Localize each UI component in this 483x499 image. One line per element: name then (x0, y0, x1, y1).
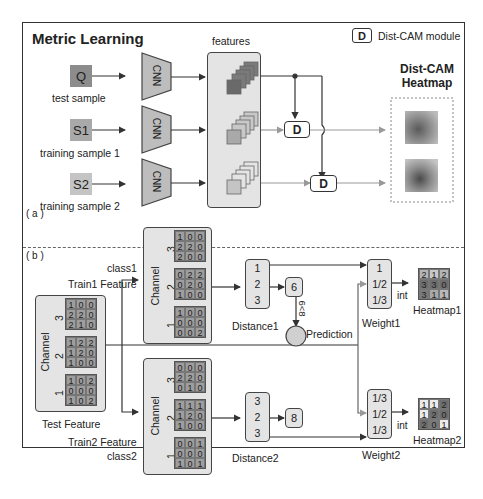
matrix-cell: 2 (76, 347, 86, 357)
matrix-cell: 0 (185, 307, 195, 317)
train2-channel-label: Channel (149, 396, 161, 436)
matrix-cell: 0 (195, 362, 205, 372)
matrix-cell: 0 (185, 438, 195, 448)
distance1-sum: 6 (285, 277, 303, 297)
matrix-cell: 1 (439, 289, 449, 299)
matrix-cell: 0 (175, 438, 185, 448)
dist-cam-module-2: D (310, 175, 337, 192)
heatmap2-caption: Heatmap2 (413, 434, 461, 446)
matrix-cell: 1 (66, 337, 76, 347)
int-label-2: int (397, 420, 408, 431)
train1-class-label: class1 (107, 262, 137, 274)
matrix-cell: 2 (175, 372, 185, 382)
matrix-cell: 0 (195, 448, 205, 458)
train2-caption: Train2 Feature (68, 436, 136, 448)
weight1-value: 1 (377, 262, 383, 274)
matrix-cell: 1 (66, 357, 76, 367)
distance1-value: 1 (255, 262, 261, 274)
matrix-cell: 1 (195, 438, 205, 448)
matrix-cell: 0 (76, 385, 86, 395)
matrix-cell: 2 (175, 251, 185, 261)
matrix-cell: 1 (175, 307, 185, 317)
matrix-cell: 1 (175, 289, 185, 299)
distance2-caption: Distance2 (232, 452, 279, 464)
matrix-cell: 2 (185, 241, 195, 251)
matrix-cell: 0 (66, 385, 76, 395)
matrix-cell: 0 (175, 448, 185, 458)
train2-ch2-grid: 111 120 100 (174, 399, 206, 431)
matrix-cell: 0 (439, 279, 449, 289)
matrix-cell: 2 (185, 410, 195, 420)
matrix-cell: 2 (175, 241, 185, 251)
matrix-cell: 0 (86, 357, 96, 367)
distance1-value: 3 (255, 294, 261, 306)
test-ch2: 2 (53, 353, 65, 359)
matrix-cell: 0 (185, 420, 195, 430)
matrix-cell: 0 (175, 327, 185, 337)
matrix-cell: 2 (429, 409, 439, 419)
matrix-cell: 0 (185, 289, 195, 299)
matrix-cell: 0 (185, 251, 195, 261)
matrix-cell: 2 (185, 269, 195, 279)
matrix-cell: 2 (86, 375, 96, 385)
matrix-cell: 0 (195, 382, 205, 392)
heatmap-image-2 (405, 159, 438, 192)
matrix-cell: 3 (419, 289, 429, 299)
matrix-cell: 0 (195, 307, 205, 317)
matrix-cell: 2 (185, 372, 195, 382)
train1-ch1-grid: 100 000 002 (174, 306, 206, 338)
matrix-cell: 0 (76, 395, 86, 405)
weight1-caption: Weight1 (362, 317, 400, 329)
matrix-cell: 0 (195, 251, 205, 261)
matrix-cell: 2 (195, 269, 205, 279)
matrix-cell: 0 (195, 420, 205, 430)
matrix-cell: 1 (66, 299, 76, 309)
matrix-cell: 0 (175, 279, 185, 289)
matrix-cell: 2 (86, 337, 96, 347)
matrix-cell: 0 (175, 382, 185, 392)
weight1-value: 1/3 (372, 294, 387, 306)
heatmap1-grid: 212 330 311 (418, 268, 450, 300)
matrix-cell: 0 (185, 448, 195, 458)
matrix-cell: 1 (175, 420, 185, 430)
cnn-label-1: CNN (151, 64, 162, 88)
test-ch3-grid: 100 220 210 (65, 298, 97, 330)
matrix-cell: 0 (185, 327, 195, 337)
distance2-value: 3 (255, 395, 261, 407)
matrix-cell: 3 (419, 279, 429, 289)
distance1-caption: Distance1 (232, 320, 279, 332)
weight1-value: 1/2 (372, 278, 387, 290)
dist-cam-module-1: D (284, 121, 310, 138)
comparison-label: 6<8 (297, 300, 308, 316)
heatmap-image-1 (405, 111, 438, 144)
distance2-value: 2 (255, 411, 261, 423)
matrix-cell: 1 (175, 231, 185, 241)
int-label-1: int (397, 290, 408, 301)
matrix-cell: 0 (175, 362, 185, 372)
matrix-cell: 0 (439, 409, 449, 419)
test-channel-label: Channel (39, 332, 51, 372)
test-ch2-grid: 122 120 100 (65, 336, 97, 368)
matrix-cell: 1 (419, 399, 429, 409)
matrix-cell: 0 (195, 231, 205, 241)
cnn-label-3: CNN (151, 170, 162, 194)
matrix-cell: 2 (185, 279, 195, 289)
distance2-value: 3 (255, 427, 261, 439)
matrix-cell: 2 (86, 395, 96, 405)
matrix-cell: 0 (76, 357, 86, 367)
distance2-box: 3 2 3 (245, 392, 270, 442)
distance1-box: 1 2 3 (245, 259, 270, 309)
matrix-cell: 1 (76, 319, 86, 329)
heatmap1-caption: Heatmap1 (413, 304, 461, 316)
train1-caption: Train1 Feature (68, 278, 136, 290)
matrix-cell: 2 (419, 269, 429, 279)
matrix-cell: 2 (195, 327, 205, 337)
matrix-cell: 1 (195, 400, 205, 410)
prediction-label: Prediction (306, 328, 353, 340)
test-ch1-grid: 102 000 102 (65, 374, 97, 406)
matrix-cell: 0 (175, 317, 185, 327)
panel-a-label: ( a ) (26, 208, 44, 219)
weight2-caption: Weight2 (362, 449, 400, 461)
weight2-box: 1/3 1/2 1/3 (367, 389, 392, 439)
test-ch3: 3 (53, 315, 65, 321)
